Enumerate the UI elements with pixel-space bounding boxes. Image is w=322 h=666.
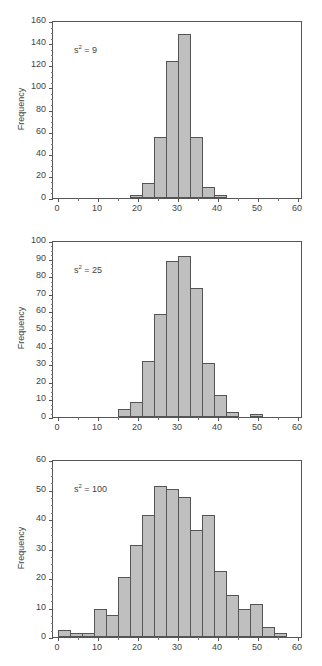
y-minor-tick [51,94,53,95]
y-minor-tick [51,28,53,29]
y-minor-tick [51,586,53,587]
y-minor-tick [51,616,53,617]
x-tick [298,198,299,202]
y-minor-tick [51,483,53,484]
histogram-bar: 1 [250,414,263,417]
y-tick-label: 0 [16,411,46,421]
y-tick [49,383,53,384]
y-minor-tick [51,55,53,56]
y-minor-tick [51,39,53,40]
y-minor-tick [51,623,53,624]
y-minor-tick [51,339,53,340]
x-minor-tick [78,417,79,420]
x-tick [178,637,179,641]
y-tick-label: 10 [16,393,46,403]
x-tick-label: 60 [287,422,307,432]
y-minor-tick [51,182,53,183]
x-minor-tick [78,637,79,640]
x-tick [258,417,259,421]
x-tick [218,417,219,421]
y-minor-tick [51,77,53,78]
x-tick-label: 50 [247,203,267,213]
y-tick-label: 0 [16,192,46,202]
x-tick-label: 0 [47,642,67,652]
y-tick-label: 50 [16,484,46,494]
x-minor-tick [118,198,119,201]
y-minor-tick [51,264,53,265]
x-minor-tick [238,417,239,420]
y-tick [49,133,53,134]
x-tick-label: 10 [87,422,107,432]
y-minor-tick [51,246,53,247]
x-tick [138,198,139,202]
y-minor-tick [51,308,53,309]
y-minor-tick [51,268,53,269]
x-tick [298,417,299,421]
y-tick-label: 70 [16,288,46,298]
y-tick-label: 60 [16,454,46,464]
x-tick [258,637,259,641]
x-tick-label: 10 [87,642,107,652]
y-tick [49,177,53,178]
y-tick [49,365,53,366]
x-tick-label: 20 [127,203,147,213]
x-tick [138,637,139,641]
y-tick [49,22,53,23]
y-tick [49,199,53,200]
y-tick [49,155,53,156]
y-tick [49,520,53,521]
y-minor-tick [51,105,53,106]
y-minor-tick [51,188,53,189]
x-tick-label: 40 [207,642,227,652]
x-minor-tick [278,637,279,640]
histogram-s2-100: 2119720314151504736412214911310102030405… [0,440,322,660]
y-axis-title: Frequency [16,84,26,134]
x-tick [58,637,59,641]
y-minor-tick [51,378,53,379]
y-minor-tick [51,542,53,543]
y-minor-tick [51,572,53,573]
y-minor-tick [51,513,53,514]
y-minor-tick [51,326,53,327]
y-minor-tick [51,343,53,344]
x-tick-label: 10 [87,203,107,213]
y-tick [49,609,53,610]
y-minor-tick [51,594,53,595]
x-minor-tick [118,637,119,640]
y-minor-tick [51,370,53,371]
y-minor-tick [51,468,53,469]
y-minor-tick [51,304,53,305]
x-tick-label: 60 [287,203,307,213]
y-minor-tick [51,387,53,388]
x-minor-tick [198,417,199,420]
x-tick-label: 30 [167,203,187,213]
y-tick [49,491,53,492]
y-minor-tick [51,374,53,375]
y-tick-label: 20 [16,170,46,180]
x-minor-tick [158,417,159,420]
x-minor-tick [238,198,239,201]
y-minor-tick [51,273,53,274]
y-minor-tick [51,505,53,506]
y-minor-tick [51,361,53,362]
y-minor-tick [51,317,53,318]
y-tick [49,88,53,89]
y-axis-title: Frequency [16,523,26,573]
y-minor-tick [51,160,53,161]
x-tick-label: 50 [247,422,267,432]
x-tick-label: 30 [167,642,187,652]
y-minor-tick [51,498,53,499]
y-tick [49,579,53,580]
y-minor-tick [51,414,53,415]
y-minor-tick [51,122,53,123]
y-axis-title: Frequency [16,303,26,353]
x-tick-label: 60 [287,642,307,652]
y-tick [49,330,53,331]
x-minor-tick [118,417,119,420]
y-minor-tick [51,166,53,167]
y-minor-tick [51,50,53,51]
y-minor-tick [51,321,53,322]
y-tick-label: 20 [16,572,46,582]
y-tick [49,312,53,313]
y-minor-tick [51,476,53,477]
